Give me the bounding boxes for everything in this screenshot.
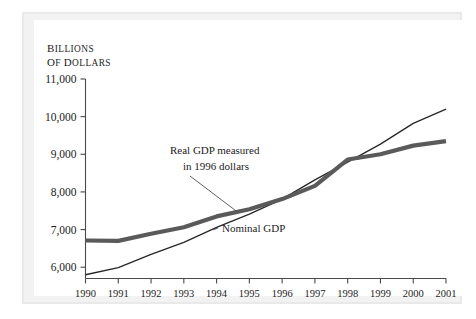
y-tick-label: 11,000 [45,73,76,86]
x-tick-label: 2001 [436,288,457,299]
y-axis-unit-line2: OF DOLLARS [47,56,111,68]
real-gdp-leader-line [190,176,236,211]
y-tick-label: 7,000 [51,224,77,237]
x-tick-label: 1990 [75,288,96,299]
x-tick-label: 1997 [304,288,325,299]
real-gdp-annotation-line1: Real GDP measured [170,144,260,156]
x-tick-label: 1995 [239,288,260,299]
x-tick-label: 2000 [403,288,424,299]
y-axis-ticks [81,79,86,267]
y-axis-tick-labels: 6,0007,0008,0009,00010,00011,000 [45,73,77,274]
x-tick-label: 1994 [206,288,228,299]
x-tick-label: 1991 [108,288,129,299]
real-gdp-annotation-line2: in 1996 dollars [183,160,249,172]
chart-page: BILLIONS OF DOLLARS 6,0007,0008,0009,000… [0,0,476,319]
chart-plot-area: BILLIONS OF DOLLARS 6,0007,0008,0009,000… [0,0,476,319]
x-axis-tick-labels: 1990199119921993199419951996199719981999… [75,288,457,299]
series-line-nominal-gdp [86,109,447,275]
x-tick-label: 1993 [173,288,194,299]
y-tick-label: 6,000 [51,261,77,274]
y-tick-label: 8,000 [51,186,77,199]
x-tick-label: 1998 [337,288,358,299]
y-axis-unit-line1: BILLIONS [47,42,94,54]
x-tick-label: 1996 [272,288,293,299]
y-tick-label: 10,000 [45,111,77,124]
x-tick-label: 1999 [370,288,391,299]
y-tick-label: 9,000 [51,148,77,161]
x-axis-ticks [86,279,447,284]
nominal-gdp-annotation-line1: Nominal GDP [222,222,285,234]
x-tick-label: 1992 [141,288,162,299]
gdp-line-chart: BILLIONS OF DOLLARS 6,0007,0008,0009,000… [0,0,476,319]
